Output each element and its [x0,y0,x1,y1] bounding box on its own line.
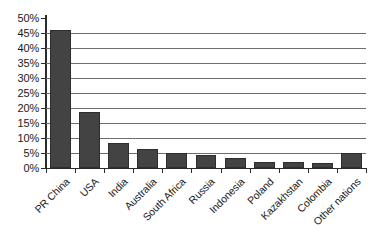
x-axis-tick-label: PR China [33,176,72,215]
y-axis-tick [41,33,46,34]
y-axis-tick [41,93,46,94]
y-axis-tick [41,138,46,139]
y-axis-tick [41,48,46,49]
x-axis-tick [308,168,309,173]
x-axis-tick [191,168,192,173]
x-axis-labels: PR ChinaUSAIndiaAustraliaSouth AfricaRus… [0,0,384,237]
y-axis-tick [41,108,46,109]
y-axis-tick [41,18,46,19]
x-axis-tick [250,168,251,173]
x-axis-tick [133,168,134,173]
y-axis-tick [41,63,46,64]
x-axis-tick [162,168,163,173]
x-axis-tick [337,168,338,173]
y-axis-tick [41,123,46,124]
x-axis-tick [46,168,47,173]
x-axis-tick [221,168,222,173]
y-axis-tick [41,78,46,79]
x-axis-tick [279,168,280,173]
x-axis-tick [104,168,105,173]
x-axis-tick-label: India [106,176,130,200]
bar-chart: 50%45%40%35%30%25%20%15%10%5%0% PR China… [0,0,384,237]
x-axis-tick-label: USA [78,176,101,199]
y-axis-tick [41,153,46,154]
x-axis-tick [366,168,367,173]
x-axis-tick [75,168,76,173]
